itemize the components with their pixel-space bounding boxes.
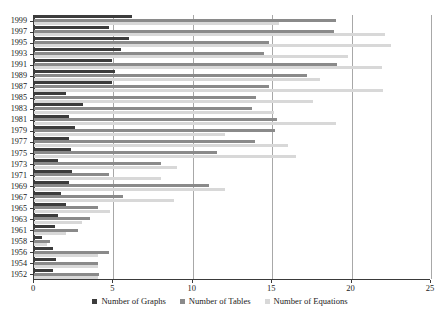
bar-graphs-1956: [34, 247, 53, 250]
bar-graphs-1989: [34, 70, 115, 73]
bar-graphs-1977: [34, 137, 69, 140]
bar-group-1961: [34, 225, 430, 236]
bar-equations-1967: [34, 199, 174, 202]
y-axis-label-1965: 1965: [11, 204, 27, 213]
x-axis-label-5: 5: [110, 283, 114, 293]
bar-equations-1952: [34, 276, 98, 279]
y-axis-label-1971: 1971: [11, 171, 27, 180]
y-axis-label-1958: 1958: [11, 237, 27, 246]
bar-group-1958: [34, 236, 430, 247]
bar-graphs-1991: [34, 59, 112, 62]
bar-tables-1975: [34, 151, 217, 154]
bar-equations-1956: [34, 254, 98, 257]
bar-graphs-1999: [34, 15, 132, 18]
y-axis-label-1952: 1952: [11, 270, 27, 279]
bar-equations-1961: [34, 232, 66, 235]
bar-graphs-1997: [34, 26, 109, 29]
bar-tables-1999: [34, 19, 336, 22]
bar-equations-1991: [34, 66, 382, 69]
bar-tables-1965: [34, 206, 98, 209]
bar-group-1963: [34, 214, 430, 225]
bar-equations-1958: [34, 243, 47, 246]
bar-equations-1989: [34, 78, 320, 81]
bar-tables-1956: [34, 251, 109, 254]
x-axis: 0510152025: [33, 280, 430, 296]
x-axis-label-25: 25: [426, 283, 435, 293]
bar-group-1995: [34, 37, 430, 48]
bar-graphs-1965: [34, 203, 66, 206]
bar-graphs-1967: [34, 192, 61, 195]
bar-tables-1971: [34, 173, 109, 176]
bar-tables-1977: [34, 140, 255, 143]
bar-equations-1981: [34, 122, 336, 125]
bar-equations-1993: [34, 55, 348, 58]
y-axis-label-1967: 1967: [11, 193, 27, 202]
bar-tables-1963: [34, 217, 90, 220]
bar-equations-1965: [34, 210, 110, 213]
bar-tables-1952: [34, 273, 99, 276]
y-axis-label-1956: 1956: [11, 248, 27, 257]
y-axis-label-1997: 1997: [11, 27, 27, 36]
square-marker-light: [265, 299, 270, 304]
bar-tables-1967: [34, 195, 123, 198]
bar-tables-1985: [34, 96, 256, 99]
legend-item-number-of-graphs: Number of Graphs: [92, 296, 165, 306]
y-axis-label-1963: 1963: [11, 215, 27, 224]
bar-graphs-1958: [34, 236, 42, 239]
plot-area: [33, 15, 430, 280]
bar-equations-1977: [34, 144, 288, 147]
bar-group-1979: [34, 125, 430, 136]
bar-group-1997: [34, 26, 430, 37]
x-axis-label-10: 10: [188, 283, 197, 293]
gridline-x-25: [431, 15, 432, 279]
bar-graphs-1969: [34, 181, 69, 184]
legend-label: Number of Graphs: [101, 296, 165, 306]
bar-group-1999: [34, 15, 430, 26]
bar-graphs-1987: [34, 81, 112, 84]
bar-group-1969: [34, 181, 430, 192]
y-axis-label-1985: 1985: [11, 93, 27, 102]
bar-tables-1993: [34, 52, 264, 55]
y-axis-label-1981: 1981: [11, 115, 27, 124]
bar-graphs-1985: [34, 92, 66, 95]
bar-group-1965: [34, 203, 430, 214]
bar-tables-1997: [34, 30, 334, 33]
bar-group-1985: [34, 92, 430, 103]
y-axis-label-1983: 1983: [11, 104, 27, 113]
bar-graphs-1979: [34, 126, 75, 129]
y-axis-label-1954: 1954: [11, 259, 27, 268]
y-axis-label-1979: 1979: [11, 126, 27, 135]
bar-equations-1969: [34, 188, 225, 191]
bar-tables-1987: [34, 85, 269, 88]
bar-tables-1961: [34, 229, 78, 232]
y-axis-label-1961: 1961: [11, 226, 27, 235]
bar-equations-1997: [34, 33, 385, 36]
bar-equations-1973: [34, 166, 177, 169]
bar-group-1975: [34, 148, 430, 159]
y-axis-label-1969: 1969: [11, 182, 27, 191]
y-axis-label-1989: 1989: [11, 71, 27, 80]
legend-label: Number of Tables: [189, 296, 251, 306]
bar-tables-1991: [34, 63, 337, 66]
bar-tables-1969: [34, 184, 209, 187]
bar-group-1956: [34, 247, 430, 258]
bar-tables-1973: [34, 162, 161, 165]
bar-tables-1989: [34, 74, 307, 77]
bar-graphs-1954: [34, 258, 56, 261]
square-marker-dark: [92, 299, 97, 304]
y-axis-label-1975: 1975: [11, 149, 27, 158]
bar-equations-1987: [34, 89, 383, 92]
bar-equations-1971: [34, 177, 161, 180]
legend-label: Number of Equations: [274, 296, 348, 306]
bar-graphs-1995: [34, 37, 129, 40]
bar-group-1987: [34, 81, 430, 92]
x-axis-label-15: 15: [267, 283, 276, 293]
chart-legend: Number of GraphsNumber of TablesNumber o…: [0, 296, 440, 306]
bar-graphs-1971: [34, 170, 72, 173]
bar-equations-1954: [34, 265, 98, 268]
bar-group-1983: [34, 103, 430, 114]
y-axis-label-1993: 1993: [11, 49, 27, 58]
bar-equations-1985: [34, 100, 313, 103]
chart-figure: 1999199719951993199119891987198519831981…: [0, 0, 440, 318]
bar-group-1991: [34, 59, 430, 70]
